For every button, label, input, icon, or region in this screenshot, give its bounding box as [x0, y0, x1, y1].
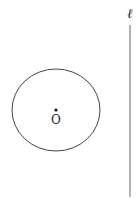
diagram-canvas: O ℓ [0, 0, 138, 198]
center-label: O [51, 113, 61, 127]
line-label: ℓ [127, 6, 133, 21]
center-point [54, 108, 57, 111]
